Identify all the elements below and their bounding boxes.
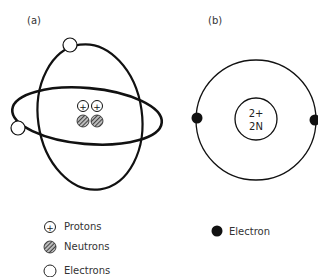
orbit-vertical [28, 37, 151, 196]
electron-filled-icon [192, 113, 203, 124]
svg-text:+: + [93, 102, 101, 112]
panel-label-b: (b) [208, 15, 222, 26]
nucleus-charge: 2+ [241, 107, 271, 120]
svg-text:+: + [46, 223, 54, 233]
electron-top [63, 38, 77, 52]
nucleus-a: + + [77, 101, 103, 128]
panel-label-a: (a) [27, 15, 41, 26]
svg-text:+: + [79, 102, 87, 112]
neutron-icon [77, 115, 89, 127]
legend-electrons: Electrons [64, 265, 110, 276]
legend-electron: Electron [229, 226, 270, 237]
electron-filled-icon [212, 226, 223, 237]
neutron-icon [44, 241, 56, 253]
legend-neutrons: Neutrons [64, 241, 109, 252]
electron-left [11, 121, 25, 135]
neutron-icon [91, 115, 103, 127]
atom-diagram: + + + [0, 0, 318, 277]
legend-protons: Protons [64, 221, 101, 232]
orbit-horizontal [10, 82, 164, 151]
nucleus-neutrons: 2N [241, 120, 271, 133]
electron-filled-icon [310, 115, 319, 126]
electron-open-icon [44, 265, 56, 277]
